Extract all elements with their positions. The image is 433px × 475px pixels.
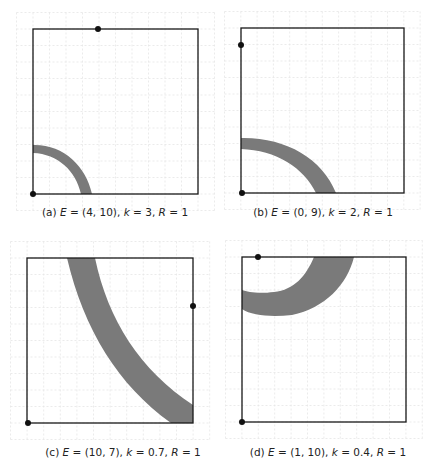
caption-R: 1 bbox=[386, 206, 393, 218]
caption-label: (d) bbox=[250, 446, 265, 458]
point-marker bbox=[25, 420, 31, 426]
caption-E: (10, 7) bbox=[85, 446, 120, 458]
grid-lines bbox=[17, 13, 215, 211]
panel-a bbox=[17, 13, 215, 211]
point-marker bbox=[30, 191, 36, 197]
caption-panel-c: (c) E = (10, 7), k = 0.7, R = 1 bbox=[45, 446, 200, 458]
caption-k: 0.4 bbox=[353, 446, 370, 458]
point-marker bbox=[238, 42, 244, 48]
caption-R: 1 bbox=[400, 446, 407, 458]
shaded-band bbox=[241, 138, 336, 193]
point-marker bbox=[255, 254, 261, 260]
point-marker bbox=[190, 303, 196, 309]
caption-label: (c) bbox=[45, 446, 59, 458]
caption-label: (a) bbox=[42, 206, 57, 218]
caption-k: 3 bbox=[145, 206, 152, 218]
caption-R: 1 bbox=[181, 206, 188, 218]
shaded-band bbox=[33, 145, 92, 194]
shaded-band bbox=[67, 258, 193, 423]
caption-E: (4, 10) bbox=[82, 206, 117, 218]
panel-c bbox=[11, 242, 210, 440]
caption-E: (1, 10) bbox=[290, 446, 325, 458]
panel-d bbox=[226, 241, 423, 439]
caption-R: 1 bbox=[194, 446, 201, 458]
point-marker bbox=[239, 419, 245, 425]
caption-panel-d: (d) E = (1, 10), k = 0.4, R = 1 bbox=[250, 446, 406, 458]
caption-k: 2 bbox=[350, 206, 357, 218]
panel-b bbox=[225, 12, 421, 210]
point-marker bbox=[239, 190, 245, 196]
point-marker bbox=[95, 26, 101, 32]
figure-2x2-panels bbox=[0, 0, 433, 475]
caption-E: (0, 9) bbox=[293, 206, 321, 218]
caption-label: (b) bbox=[253, 206, 268, 218]
shaded-band bbox=[242, 257, 354, 316]
caption-panel-a: (a) E = (4, 10), k = 3, R = 1 bbox=[42, 206, 188, 218]
caption-k: 0.7 bbox=[148, 446, 165, 458]
caption-panel-b: (b) E = (0, 9), k = 2, R = 1 bbox=[253, 206, 393, 218]
